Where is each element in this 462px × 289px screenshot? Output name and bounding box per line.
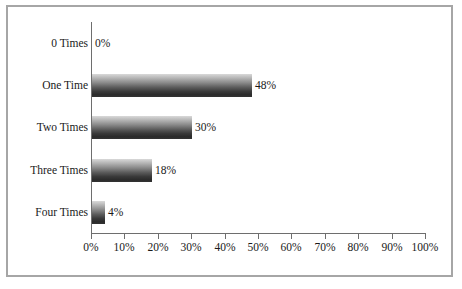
x-axis-tick [392,234,393,239]
bar-value-label: 0% [92,32,110,55]
x-axis-tick [291,234,292,239]
bar-row: Two Times30% [0,106,462,148]
category-label: One Time [0,64,88,106]
x-axis-tick [225,234,226,239]
x-axis-tick [425,234,426,239]
x-axis-tick [91,234,92,239]
x-axis-tick-label: 100% [402,241,448,253]
bar-row: Four Times4% [0,191,462,233]
x-axis-tick [124,234,125,239]
x-axis-tick [191,234,192,239]
bar-value-label: 48% [252,74,276,97]
chart-figure: 0 Times0%One Time48%Two Times30%Three Ti… [0,0,462,289]
bar-value-label: 18% [152,159,176,182]
bar-row: 0 Times0% [0,22,462,64]
bar-value-label: 30% [192,116,216,139]
bar-row: One Time48% [0,64,462,106]
category-label: Four Times [0,191,88,233]
x-axis-tick [358,234,359,239]
bar [92,201,105,224]
bar [92,74,252,97]
category-label: Two Times [0,106,88,148]
category-label: 0 Times [0,22,88,64]
x-axis-tick [158,234,159,239]
category-label: Three Times [0,149,88,191]
bar [92,159,152,182]
bar [92,116,192,139]
x-axis-tick [258,234,259,239]
bar-row: Three Times18% [0,149,462,191]
x-axis-tick [325,234,326,239]
bar-value-label: 4% [105,201,123,224]
